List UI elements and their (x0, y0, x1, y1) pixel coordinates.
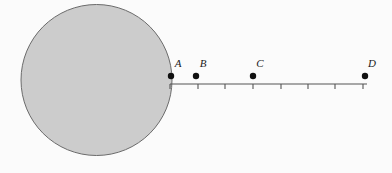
point-label-b: B (200, 57, 207, 69)
point-label-d: D (367, 57, 376, 69)
point-dot-b (193, 73, 199, 79)
shaded-circle (21, 5, 172, 156)
point-label-a: A (174, 57, 182, 69)
point-dot-c (250, 73, 256, 79)
point-dot-a (168, 73, 174, 79)
point-label-c: C (256, 57, 264, 69)
diagram-svg: ABCD (0, 0, 392, 173)
point-dot-d (362, 73, 368, 79)
figure-canvas: ABCD (0, 0, 392, 173)
